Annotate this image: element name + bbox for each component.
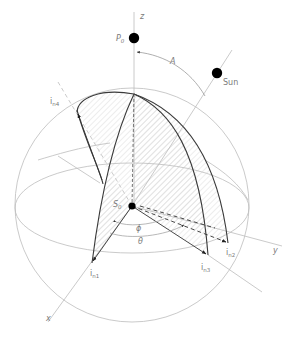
tick-left [58, 156, 100, 183]
S0-dot [128, 202, 135, 209]
in4-label: in4 [50, 98, 59, 108]
in2-label: in2 [226, 249, 235, 259]
in1-label: in1 [90, 270, 99, 280]
zenith-angle-label: A [170, 58, 175, 66]
in2-label-sub: n2 [228, 252, 235, 258]
phi-label: ϕ [136, 225, 141, 233]
P0-dot [129, 33, 139, 43]
plane-n2-surface [132, 94, 228, 243]
x-axis-label: x [46, 315, 51, 323]
sun-dot [212, 68, 222, 78]
celestial-sphere-diagram [0, 0, 297, 337]
shaded-planes [77, 93, 228, 263]
y-axis-label: y [273, 247, 278, 255]
in1-label-sub: n1 [92, 273, 99, 279]
in3-label-sub: n3 [203, 267, 210, 273]
in4-label-sub: n4 [52, 101, 59, 107]
observer-label: S0 [113, 201, 122, 211]
z-axis-label: z [140, 13, 144, 21]
pole-label: P0 [116, 35, 124, 45]
pole-label-sub: 0 [121, 38, 125, 44]
observer-label-sub: 0 [118, 204, 122, 210]
theta-label: θ [138, 238, 143, 246]
sun-label: Sun [223, 79, 238, 87]
in3-label: in3 [201, 264, 210, 274]
